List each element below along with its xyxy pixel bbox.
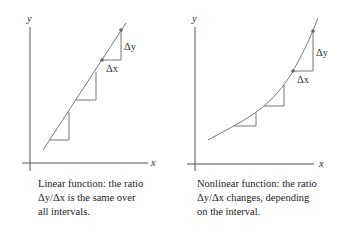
y-axis-label: y	[26, 13, 32, 24]
point-upper	[311, 29, 315, 33]
caption-line: Δy/Δx is the same over	[38, 191, 143, 205]
point-lower	[291, 69, 295, 73]
caption-line: Linear function: the ratio	[38, 177, 143, 191]
caption-line: Nonlinear function: the ratio	[197, 177, 317, 191]
delta-y-label: Δy	[124, 41, 137, 52]
point-lower	[100, 58, 104, 62]
caption-line: Δy/Δx changes, depending	[197, 191, 317, 205]
linear-caption: Linear function: the ratio Δy/Δx is the …	[38, 177, 143, 219]
linear-panel: y x Δy Δx	[22, 13, 156, 171]
caption-line: on the interval.	[197, 205, 317, 219]
delta-x-label: Δx	[297, 74, 310, 85]
nonlinear-panel: y x Δy Δx	[187, 13, 329, 171]
x-axis-label: x	[150, 157, 156, 168]
y-axis-label: y	[191, 13, 197, 24]
linear-function-line	[43, 23, 126, 150]
nonlinear-caption: Nonlinear function: the ratio Δy/Δx chan…	[197, 177, 317, 219]
point-upper	[119, 28, 123, 32]
caption-line: all intervals.	[38, 205, 143, 219]
x-axis-label: x	[318, 158, 324, 169]
delta-x-label: Δx	[106, 63, 119, 74]
delta-y-label: Δy	[316, 47, 329, 58]
